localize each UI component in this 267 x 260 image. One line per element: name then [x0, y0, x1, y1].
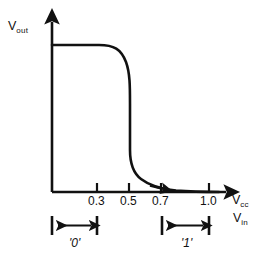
x-tick-label-1.0: 1.0: [200, 195, 217, 207]
x-tick-label-0.7: 0.7: [152, 195, 169, 207]
x-axis-label-vcc: Vcc: [232, 194, 249, 207]
x-axis-label-vin-sub: in: [241, 218, 248, 227]
x-axis-label-vcc-sub: cc: [240, 200, 248, 209]
logic-high-span-label: '1': [181, 237, 192, 249]
vtc-curve: [52, 45, 219, 192]
logic-low-span-label: '0': [69, 237, 80, 249]
y-axis-label: Vout: [8, 20, 28, 33]
vtc-plot-svg: [0, 0, 267, 260]
x-tick-label-0.5: 0.5: [120, 195, 137, 207]
x-tick-label-0.3: 0.3: [88, 195, 105, 207]
x-axis-label-vin: Vin: [233, 212, 248, 225]
y-axis-label-sub: out: [16, 26, 28, 35]
vtc-figure: Vout Vcc Vin 0.3 0.5 0.7 1.0 '0' '1': [0, 0, 267, 260]
